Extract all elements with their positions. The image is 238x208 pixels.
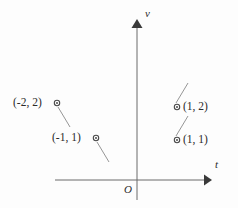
x-axis-arrow-icon [204,175,212,186]
point-label-minus1-1: (-1, 1) [52,132,81,144]
data-point-marker [174,104,179,109]
data-point-marker [174,137,179,142]
origin-label: O [124,184,132,195]
data-point-marker [93,135,98,140]
leader-line-p1 [58,107,70,127]
data-point-marker [54,100,59,105]
x-axis-label: t [215,159,218,170]
y-axis-label: v [145,8,150,19]
point-label-1-1: (1, 1) [183,134,208,146]
y-axis-arrow-icon [132,19,143,28]
leader-line-p2 [97,142,109,162]
point-label-1-2: (1, 2) [183,101,208,113]
figure-canvas: t v O (-2, 2) (-1, 1) (1, 2) (1, 1) [0,0,238,208]
point-label-minus2-2: (-2, 2) [13,97,42,109]
